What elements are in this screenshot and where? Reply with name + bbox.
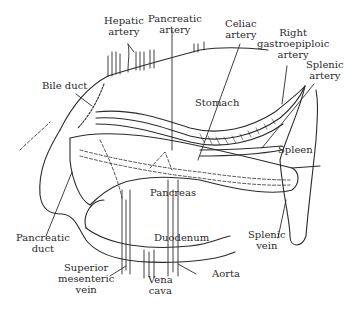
leader-bile-duct [76,94,92,106]
label-duodenum: Duodenum [154,232,209,243]
label-spleen: Spleen [278,144,313,155]
label-pancreas: Pancreas [150,187,196,198]
label-hepatic-artery: Hepatic artery [104,15,144,37]
leader-pancreatic-duct [46,172,72,236]
leader-splenic-artery [262,84,314,148]
label-celiac-artery: Celiac artery [225,18,257,40]
label-pancreatic-duct: Pancreatic duct [16,232,70,254]
spleen-outline [280,86,318,245]
label-bile-duct: Bile duct [42,80,87,91]
label-stomach: Stomach [195,97,239,108]
label-right-gastroepiploic-artery: Right gastroepiploic artery [257,27,329,60]
label-vena-cava: Vena cava [148,274,173,296]
label-pancreatic-artery: Pancreatic artery [148,13,202,35]
leader-aorta [178,264,196,274]
label-superior-mesenteric-vein: Superior mesenteric vein [58,262,114,295]
label-splenic-vein: Splenic vein [248,229,286,251]
label-splenic-artery: Splenic artery [306,59,344,81]
stomach-outline [108,48,268,76]
pancreas-anatomy-diagram: Hepatic artery Pancreatic artery Celiac … [0,0,354,312]
label-aorta: Aorta [212,268,240,279]
leader-right-gastroepiploic [282,66,287,104]
